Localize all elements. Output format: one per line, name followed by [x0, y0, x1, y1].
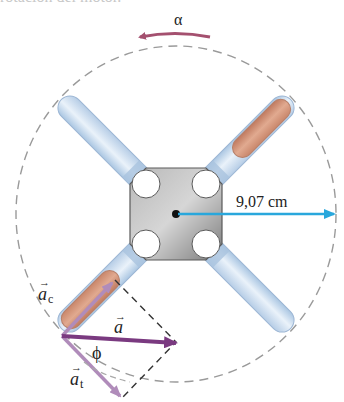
- alpha-label: α: [174, 11, 183, 28]
- svg-text:ϕ: ϕ: [92, 343, 101, 363]
- svg-text:→: →: [115, 310, 126, 322]
- label-a-t: a t →: [70, 361, 84, 391]
- svg-text:→: →: [71, 361, 82, 373]
- total-acceleration-vector: [62, 336, 176, 343]
- svg-text:c: c: [48, 292, 53, 306]
- label-a: a →: [114, 310, 126, 337]
- label-a-c: a c →: [38, 276, 53, 306]
- label-phi: ϕ: [92, 343, 101, 363]
- angular-acceleration-arrow: [140, 34, 210, 38]
- radius-label: 9,07 cm: [236, 193, 288, 210]
- svg-text:→: →: [39, 276, 50, 288]
- centrifuge-diagram: 9,07 cm α a c → a → ϕ a t →: [0, 0, 344, 402]
- svg-text:t: t: [80, 377, 84, 391]
